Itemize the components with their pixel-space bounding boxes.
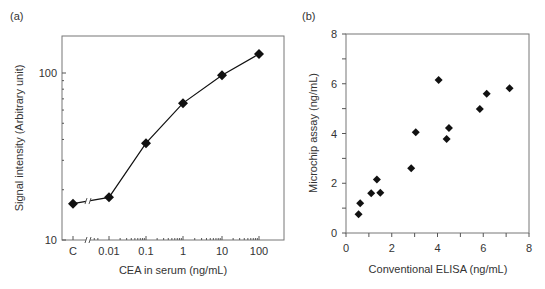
scatter-point-marker: [407, 164, 415, 172]
panel-b-chart: (b) 02468 02468 Conventional ELISA (ng/m…: [302, 10, 532, 275]
scatter-point-marker: [376, 189, 384, 197]
scatter-point-marker: [367, 189, 375, 197]
panel-b-label: (b): [302, 10, 315, 22]
data-point-marker: [104, 192, 114, 202]
panel-b-y-axis-title: Microchip assay (ng/mL): [307, 73, 319, 193]
y-tick-label: 8: [331, 28, 337, 40]
x-tick-label: 6: [480, 242, 486, 254]
scatter-point-marker: [435, 76, 443, 84]
scatter-point-marker: [443, 135, 451, 143]
y-tick-label: 6: [331, 78, 337, 90]
scatter-point-marker: [373, 176, 381, 184]
x-tick-label: 0: [343, 242, 349, 254]
x-tick-label: 2: [389, 242, 395, 254]
x-tick-label: 0.01: [98, 245, 119, 257]
panel-a-label: (a): [10, 10, 23, 22]
scatter-point-marker: [476, 105, 484, 113]
panel-a-x-axis-title: CEA in serum (ng/mL): [119, 264, 227, 276]
panel-b-series: [355, 76, 514, 218]
panel-b-y-axis: 02468: [331, 28, 346, 239]
panel-b-frame: [346, 34, 529, 233]
y-tick-label: 0: [331, 227, 337, 239]
y-tick-label: 10: [45, 234, 57, 246]
panel-a-y-axis-title: Signal intensity (Arbitrary unit): [13, 65, 25, 212]
y-tick-label: 4: [331, 128, 337, 140]
panel-a-x-axis: C0.010.1110100: [69, 236, 268, 257]
x-tick-label: 4: [434, 242, 440, 254]
figure-canvas: (a) 10100 C0.010.1110100 CEA in serum (n…: [0, 0, 545, 289]
y-tick-label: 100: [39, 67, 57, 79]
data-point-marker: [254, 49, 264, 59]
scatter-point-marker: [355, 210, 363, 218]
scatter-point-marker: [412, 128, 420, 136]
panel-a-series: [68, 49, 264, 209]
y-tick-label: 2: [331, 177, 337, 189]
x-tick-label: 10: [216, 245, 228, 257]
x-tick-label: 0.1: [138, 245, 153, 257]
panel-b-x-axis: 02468: [343, 233, 532, 254]
panel-b-x-axis-title: Conventional ELISA (ng/mL): [369, 263, 508, 275]
x-tick-label: 100: [250, 245, 268, 257]
scatter-point-marker: [356, 199, 364, 207]
x-tick-label: 1: [180, 245, 186, 257]
scatter-point-marker: [445, 124, 453, 132]
series-line: [73, 54, 259, 204]
panel-a-chart: (a) 10100 C0.010.1110100 CEA in serum (n…: [10, 10, 284, 276]
x-tick-label: C: [69, 245, 77, 257]
panel-a-frame: [62, 36, 284, 240]
scatter-point-marker: [506, 84, 514, 92]
scatter-point-marker: [483, 90, 491, 98]
x-tick-label: 8: [526, 242, 532, 254]
data-point-marker: [217, 70, 227, 80]
data-point-marker: [68, 199, 78, 209]
